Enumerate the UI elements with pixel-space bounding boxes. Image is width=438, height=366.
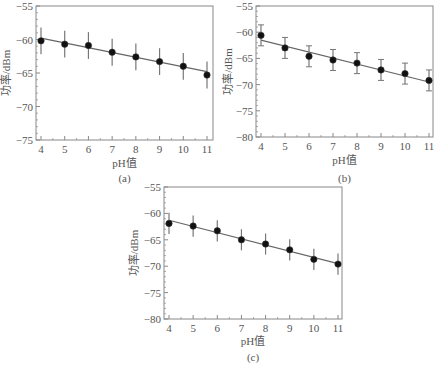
y-tick-label: −55: [236, 0, 254, 12]
data-point: [190, 223, 196, 229]
chart-panel-c: −55−60−65−70−75−804567891011pH值功率/dBm(c): [127, 181, 343, 364]
y-axis-title: 功率/dBm: [0, 49, 12, 96]
x-axis: 4567891011: [38, 136, 212, 155]
panel-caption: (a): [118, 172, 131, 185]
data-series: [166, 213, 341, 275]
x-tick-label: 8: [133, 143, 139, 155]
data-point: [156, 58, 162, 64]
data-point: [109, 49, 115, 55]
y-tick-label: −80: [236, 131, 254, 143]
y-tick-label: −60: [16, 34, 34, 46]
x-tick-label: 5: [190, 322, 196, 334]
x-tick-label: 7: [330, 140, 336, 152]
data-point: [354, 60, 360, 66]
y-tick-label: −70: [144, 260, 162, 272]
y-tick-label: −75: [16, 134, 34, 146]
plot-frame: [36, 6, 213, 140]
y-axis-title: 功率/dBm: [221, 48, 234, 95]
chart-panel-a: −55−60−65−70−754567891011pH值功率/dBm(a): [0, 0, 213, 185]
data-point: [238, 237, 244, 243]
data-point: [335, 261, 341, 267]
y-tick-label: −75: [144, 287, 162, 299]
x-tick-label: 4: [258, 140, 264, 152]
x-tick-label: 11: [424, 140, 435, 152]
data-point: [133, 54, 139, 60]
figure-canvas: −55−60−65−70−754567891011pH值功率/dBm(a) −5…: [0, 0, 438, 366]
panel-caption: (b): [338, 172, 351, 185]
y-tick-label: −55: [144, 181, 162, 193]
x-tick-label: 6: [306, 140, 312, 152]
x-tick-label: 10: [400, 140, 412, 152]
y-tick-label: −65: [144, 234, 162, 246]
y-tick-label: −65: [236, 52, 254, 64]
data-point: [402, 70, 408, 76]
x-tick-label: 8: [354, 140, 360, 152]
y-tick-label: −70: [236, 79, 254, 91]
data-point: [62, 41, 68, 47]
x-axis: 4567891011: [258, 133, 434, 152]
data-point: [180, 63, 186, 69]
x-tick-label: 9: [287, 322, 293, 334]
x-tick-label: 11: [202, 143, 213, 155]
x-tick-label: 11: [333, 322, 344, 334]
data-point: [282, 45, 288, 51]
data-point: [287, 247, 293, 253]
data-series: [258, 25, 432, 91]
x-tick-label: 9: [157, 143, 163, 155]
y-tick-label: −60: [144, 207, 162, 219]
data-point: [166, 220, 172, 226]
x-axis-title: pH值: [241, 335, 265, 347]
x-tick-label: 10: [308, 322, 320, 334]
x-axis: 4567891011: [166, 315, 343, 334]
x-tick-label: 9: [378, 140, 384, 152]
data-point: [378, 67, 384, 73]
x-tick-label: 6: [215, 322, 221, 334]
y-tick-label: −60: [236, 26, 254, 38]
x-tick-label: 7: [239, 322, 245, 334]
x-tick-label: 4: [166, 322, 172, 334]
y-tick-label: −70: [16, 101, 34, 113]
x-tick-label: 10: [178, 143, 190, 155]
y-tick-label: −65: [16, 67, 34, 79]
y-tick-label: −75: [236, 105, 254, 117]
x-tick-label: 5: [282, 140, 288, 152]
x-tick-label: 5: [62, 143, 68, 155]
plot-frame: [164, 187, 342, 319]
chart-panel-b: −55−60−65−70−75−804567891011pH值功率/dBm(b): [221, 0, 434, 185]
y-axis-title: 功率/dBm: [127, 229, 140, 276]
data-point: [306, 53, 312, 59]
y-tick-label: −80: [144, 313, 162, 325]
data-point: [204, 72, 210, 78]
x-tick-label: 7: [109, 143, 115, 155]
panel-caption: (c): [247, 351, 260, 364]
data-series: [38, 27, 210, 88]
x-axis-title: pH值: [112, 157, 136, 169]
data-point: [426, 77, 432, 83]
data-point: [258, 32, 264, 38]
data-point: [311, 256, 317, 262]
x-tick-label: 8: [263, 322, 269, 334]
y-tick-label: −55: [16, 0, 34, 12]
x-tick-label: 6: [86, 143, 92, 155]
data-point: [85, 42, 91, 48]
data-point: [38, 38, 44, 44]
data-point: [262, 241, 268, 247]
data-point: [330, 57, 336, 63]
x-axis-title: pH值: [332, 154, 356, 166]
data-point: [214, 228, 220, 234]
x-tick-label: 4: [38, 143, 44, 155]
